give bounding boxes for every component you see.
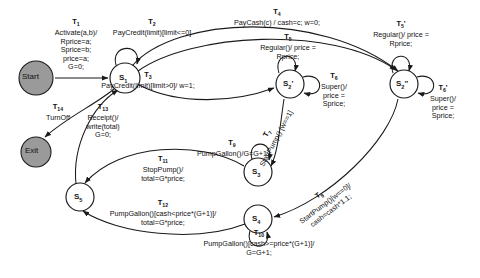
- transition-text-line: PayCredit(limit)[limit>0]/ w=1;: [101, 82, 194, 91]
- edge-s2p-self-t6: [303, 76, 320, 94]
- transition-text-line: Rprice;: [373, 40, 429, 49]
- transition-label-t3: T3PayCredit(limit)[limit>0]/ w=1;: [101, 71, 194, 91]
- transition-label-t6p: T6'Super()/price =Sprice;: [430, 84, 456, 121]
- transition-label-t12: T12PumpGallon()[cash<price*(G+1)]/total=…: [110, 199, 217, 227]
- state-label-s2-doubleprime: S2": [396, 79, 408, 90]
- transition-text-line: PayCash(c) / cash=c; w=0;: [234, 19, 320, 28]
- transition-label-t5p: T5'Regular()/ price =Rprice;: [373, 20, 429, 48]
- transition-label-t2: T2PayCredit(limit)[limit<=0]: [113, 18, 191, 38]
- transition-text-line: Rprice;: [260, 53, 316, 62]
- transition-text-line: PumpGallon()/G=G+1: [197, 150, 267, 159]
- transition-text-line: PayCredit(limit)[limit<=0]: [113, 29, 191, 38]
- transition-label-t1: T1Activate(a,b)/Rprice=a;Sprice=b;price=…: [55, 18, 97, 72]
- transition-text-line: TurnOff: [46, 114, 70, 123]
- transition-label-t5: T5Regular()/ price =Rprice;: [260, 33, 316, 61]
- transition-label-t6: T6Super()/price =Sprice;: [321, 72, 347, 109]
- transition-text-line: Sprice;: [430, 112, 456, 121]
- transition-text-line: Sprice;: [321, 100, 347, 109]
- transition-label-t4: T4PayCash(c) / cash=c; w=0;: [234, 8, 320, 28]
- transition-text-line: total=G*price;: [110, 219, 217, 228]
- transition-text-line: total=G*price;: [141, 175, 185, 184]
- transition-label-t11: T11StopPump()/total=G*price;: [141, 155, 185, 183]
- state-label-s5: S5: [74, 192, 82, 203]
- state-label-s2-prime: S2': [283, 79, 293, 90]
- transition-text-line: G=G+1;: [204, 249, 315, 258]
- start-label: Start: [22, 72, 39, 81]
- transition-label-t9: T9PumpGallon()/G=G+1: [197, 139, 267, 159]
- state-label-s3: S3: [252, 167, 260, 178]
- transition-label-t14: T14TurnOff: [46, 103, 70, 123]
- transition-label-t10: T10PumpGallon()[cash>=price*(G+1)]/G=G+1…: [204, 229, 315, 257]
- transition-text-line: G=0;: [55, 63, 97, 72]
- state-label-s4: S4: [252, 214, 260, 225]
- transition-text-line: G=0;: [86, 131, 120, 140]
- transition-label-t13: T13Receipt()/write(total)G=0;: [86, 103, 120, 140]
- exit-label: Exit: [25, 146, 38, 155]
